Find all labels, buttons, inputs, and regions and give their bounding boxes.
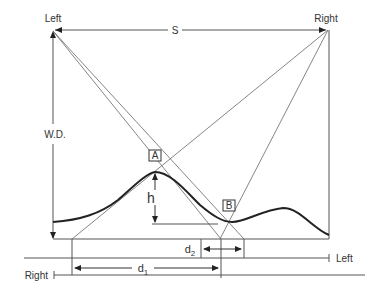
arrow-left-icon <box>55 27 62 33</box>
point-b-label: B <box>226 200 233 211</box>
left-camera-rays <box>53 31 244 239</box>
d1-dimension: d1 <box>74 260 219 277</box>
point-b-marker: B <box>223 200 235 211</box>
arrow-left-icon <box>74 265 81 271</box>
height-label: h <box>147 190 155 206</box>
right-camera-rays <box>72 30 328 239</box>
baseline-s-dimension: S <box>55 25 326 36</box>
right-image-axis: Right <box>25 270 365 281</box>
point-a-label: A <box>152 150 159 161</box>
right-camera-label: Right <box>314 13 338 24</box>
left-axis-label: Left <box>336 253 353 264</box>
left-camera-label: Left <box>45 13 62 24</box>
arrow-down-icon <box>50 232 56 239</box>
arrow-left-icon <box>203 246 210 252</box>
arrow-up-icon <box>152 173 158 180</box>
right-axis-label: Right <box>25 270 49 281</box>
stereo-parallax-diagram: S Left Right W.D. A B <box>0 0 382 291</box>
arrow-right-icon <box>212 265 219 271</box>
arrow-down-icon <box>152 216 158 223</box>
point-a-marker: A <box>149 150 161 161</box>
baseline-label: S <box>172 25 179 36</box>
arrow-right-icon <box>235 246 242 252</box>
d2-label: d2 <box>185 243 196 258</box>
working-distance-dimension: W.D. <box>44 31 66 239</box>
working-distance-label: W.D. <box>44 129 66 140</box>
arrow-up-icon <box>50 31 56 38</box>
d2-dimension: d2 <box>185 243 242 258</box>
